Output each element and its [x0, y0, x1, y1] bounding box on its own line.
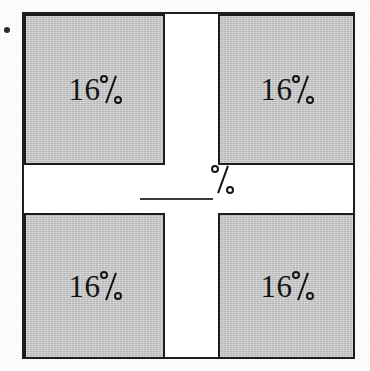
quadrant-bottom-right: 16	[218, 213, 355, 359]
quadrant-top-left-label: 16	[68, 74, 120, 105]
percent-sign-icon	[213, 164, 232, 195]
percent-sign-icon	[101, 271, 120, 302]
percent-sign-icon	[101, 74, 120, 105]
bullet-point-icon	[4, 27, 10, 33]
percent-square-figure: 16 16 16 16	[0, 0, 370, 371]
answer-blank-underline[interactable]	[140, 198, 213, 200]
quadrant-top-left: 16	[24, 14, 165, 165]
percent-sign-icon	[293, 271, 312, 302]
quadrant-bottom-right-label: 16	[260, 271, 312, 302]
center-percent-label	[212, 164, 232, 200]
outer-square-frame: 16 16 16 16	[22, 12, 355, 359]
quadrant-bottom-left-label: 16	[68, 271, 120, 302]
quadrant-top-right: 16	[218, 14, 355, 165]
quadrant-top-right-label: 16	[260, 74, 312, 105]
quadrant-bottom-left: 16	[24, 213, 165, 359]
center-answer-blank[interactable]	[134, 162, 252, 214]
percent-sign-icon	[293, 74, 312, 105]
